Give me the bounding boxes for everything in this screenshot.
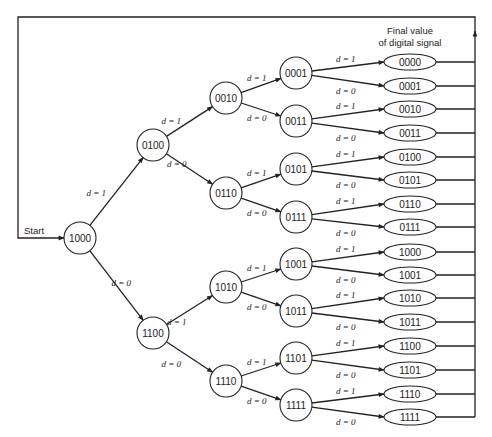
final-value-0110: 0110: [384, 196, 436, 212]
state-node-1011: 1011: [280, 295, 312, 327]
final-value-1101: 1101: [384, 362, 436, 378]
start-label: Start: [24, 225, 44, 236]
diagram-canvas: d = 1d = 0d = 1d = 0d = 1d = 0d = 1d = 0…: [0, 0, 492, 437]
node-label: 1010: [215, 282, 238, 293]
edge-label: d = 0: [112, 278, 132, 288]
edge-label: d = 1: [247, 73, 267, 83]
state-node-0001: 0001: [280, 57, 312, 89]
node-label: 0110: [215, 188, 237, 199]
edge-label: d = 1: [336, 386, 356, 396]
final-value-1000: 1000: [384, 244, 436, 260]
state-node-0011: 0011: [280, 105, 312, 137]
edge-arrow: [312, 313, 384, 322]
state-node-0110: 0110: [210, 177, 242, 209]
edge-label: d = 1: [167, 317, 187, 327]
node-label: 0100: [142, 140, 165, 151]
final-label: 1100: [399, 341, 421, 352]
final-value-1011: 1011: [384, 314, 436, 330]
state-node-0100: 0100: [137, 129, 169, 161]
final-label: 0010: [399, 104, 422, 115]
final-value-0000: 0000: [384, 54, 436, 70]
final-label: 0111: [400, 222, 421, 233]
final-label: 0100: [399, 152, 422, 163]
edge-label: d = 1: [247, 263, 267, 273]
final-value-0001: 0001: [384, 78, 436, 94]
state-node-0111: 0111: [280, 201, 312, 233]
final-value-0010: 0010: [384, 101, 436, 117]
edge-label: d = 1: [336, 290, 356, 300]
edge-arrow: [312, 123, 384, 133]
edge-label: d = 0: [336, 370, 356, 380]
header-line-1: Final value: [387, 25, 433, 36]
final-label: 1001: [399, 270, 422, 281]
edge-label: d = 0: [336, 322, 356, 332]
node-label: 1111: [286, 400, 306, 411]
state-node-1100: 1100: [137, 317, 169, 349]
final-values: 0000000100100011010001010110011110001001…: [384, 54, 436, 425]
edge-label: d = 0: [247, 396, 267, 406]
edge-label: d = 1: [87, 188, 107, 198]
final-label: 0001: [399, 81, 422, 92]
edge-arrow: [312, 171, 384, 180]
final-value-header: Final value of digital signal: [379, 25, 442, 48]
edge-arrow: [312, 407, 384, 417]
final-value-1010: 1010: [384, 290, 436, 306]
edge-arrow: [312, 75, 384, 86]
edge-label: d = 1: [162, 116, 182, 126]
node-label: 1001: [285, 259, 308, 270]
final-label: 0000: [399, 57, 422, 68]
node-label: 0011: [285, 116, 307, 127]
final-label: 1000: [399, 247, 422, 258]
edge-label: d = 0: [336, 228, 356, 238]
binary-search-tree-diagram: d = 1d = 0d = 1d = 0d = 1d = 0d = 1d = 0…: [0, 0, 492, 437]
edge-arrow: [312, 219, 384, 227]
edge-label: d = 0: [336, 417, 356, 427]
edge-label: d = 0: [247, 302, 267, 312]
edge-label: d = 0: [336, 86, 356, 96]
state-node-1010: 1010: [210, 271, 242, 303]
edge-label: d = 0: [162, 359, 182, 369]
state-node-1000: 1000: [64, 222, 96, 254]
node-label: 0010: [215, 93, 238, 104]
header-line-2: of digital signal: [379, 37, 442, 48]
state-node-1110: 1110: [210, 365, 242, 397]
node-label: 0101: [285, 164, 308, 175]
final-value-0111: 0111: [384, 219, 436, 235]
edge-arrow: [312, 266, 384, 275]
state-node-1101: 1101: [280, 342, 312, 374]
edge-label: d = 0: [336, 133, 356, 143]
edge-label: d = 0: [336, 275, 356, 285]
node-label: 1011: [285, 306, 307, 317]
final-label: 1101: [399, 365, 421, 376]
final-value-0011: 0011: [384, 125, 436, 141]
edge-label: d = 1: [247, 168, 267, 178]
final-label: 1111: [400, 412, 420, 423]
final-label: 1110: [400, 389, 421, 400]
final-value-0100: 0100: [384, 149, 436, 165]
final-label: 0101: [399, 175, 422, 186]
edge-label: d = 1: [336, 101, 356, 111]
node-label: 0111: [286, 212, 307, 223]
edge-label: d = 1: [336, 54, 356, 64]
edge-label: d = 1: [336, 196, 356, 206]
final-label: 0011: [399, 128, 421, 139]
edge-label: d = 1: [247, 357, 267, 367]
final-label: 0110: [399, 199, 421, 210]
node-label: 1100: [142, 328, 164, 339]
state-node-1001: 1001: [280, 248, 312, 280]
edge-arrow: [312, 360, 384, 370]
final-value-1111: 1111: [384, 409, 436, 425]
edge-label: d = 0: [247, 208, 267, 218]
state-node-0101: 0101: [280, 153, 312, 185]
edge-label: d = 1: [336, 338, 356, 348]
edge-label: d = 1: [336, 149, 356, 159]
edge-label: d = 0: [336, 180, 356, 190]
edge-label: d = 0: [247, 113, 267, 123]
final-label: 1011: [399, 317, 421, 328]
nodes: 1000010011000010011010101110000100110101…: [64, 57, 312, 421]
state-node-1111: 1111: [280, 389, 312, 421]
edge-label: d = 1: [336, 244, 356, 254]
final-label: 1010: [399, 293, 422, 304]
final-value-0101: 0101: [384, 172, 436, 188]
state-node-0010: 0010: [210, 82, 242, 114]
